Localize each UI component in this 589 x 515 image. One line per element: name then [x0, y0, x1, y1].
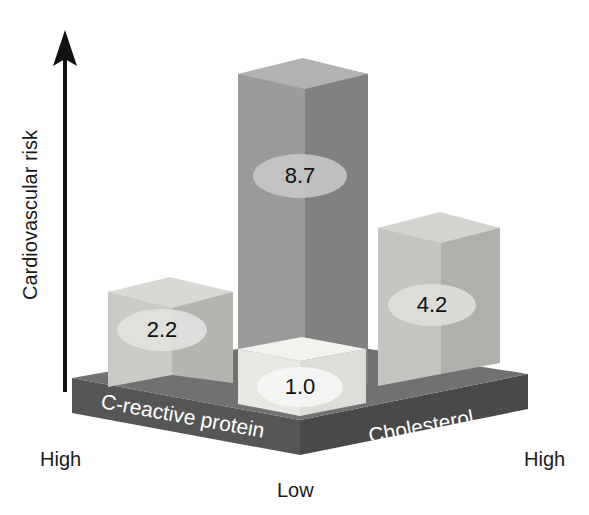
bar-4-2-value: 4.2: [417, 292, 448, 317]
bar-8-7[interactable]: 8.7: [238, 58, 368, 386]
tick-label-center-low: Low: [277, 479, 314, 501]
bar-8-7-side-face: [305, 61, 368, 385]
tick-label-left-high: High: [40, 448, 81, 470]
y-axis: Cardiovascular risk: [19, 30, 77, 392]
bar-1-0-value: 1.0: [285, 374, 316, 399]
bar-2-2-value: 2.2: [147, 317, 178, 342]
bar-2-2[interactable]: 2.2: [108, 277, 233, 387]
tick-label-right-high: High: [524, 448, 565, 470]
bar-4-2[interactable]: 4.2: [378, 212, 500, 386]
3d-bar-chart: Cardiovascular risk 2.2 8.7: [0, 0, 589, 515]
bar-8-7-value: 8.7: [285, 163, 316, 188]
bar-8-7-front-face: [238, 61, 305, 386]
y-axis-label: Cardiovascular risk: [19, 129, 41, 300]
bar-1-0[interactable]: 1.0: [238, 337, 366, 416]
chart-figure: Cardiovascular risk 2.2 8.7: [0, 0, 589, 515]
